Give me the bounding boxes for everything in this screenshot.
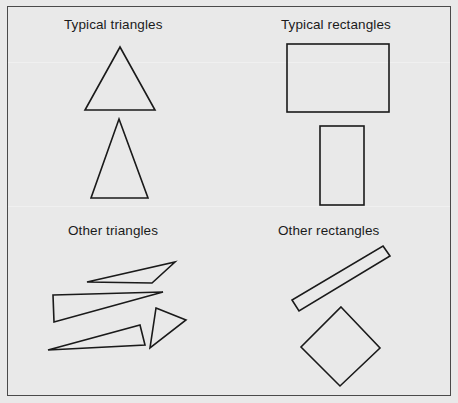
label-other-triangles: Other triangles <box>68 224 158 238</box>
equilateral-triangle <box>85 47 155 110</box>
group-typical-rectangles <box>287 44 389 205</box>
tall-rectangle <box>320 126 364 205</box>
sliver-triangle-left-wedge <box>53 292 163 322</box>
group-typical-triangles <box>85 47 155 198</box>
label-typical-rectangles: Typical rectangles <box>281 18 391 32</box>
wide-rectangle <box>287 44 389 112</box>
obtuse-triangle-right <box>150 308 186 348</box>
diamond-rotated-square <box>301 307 380 386</box>
shape-layer <box>0 0 458 403</box>
label-other-rectangles: Other rectangles <box>278 224 379 238</box>
group-other-triangles <box>48 262 186 350</box>
label-typical-triangles: Typical triangles <box>64 18 163 32</box>
thin-rotated-rectangle <box>292 246 390 311</box>
sliver-triangle-lower <box>48 325 145 350</box>
sliver-triangle-upper <box>87 262 175 283</box>
isosceles-triangle <box>91 119 148 198</box>
figure-panel: Typical triangles Typical rectangles Oth… <box>0 0 458 403</box>
group-other-rectangles <box>292 246 390 386</box>
